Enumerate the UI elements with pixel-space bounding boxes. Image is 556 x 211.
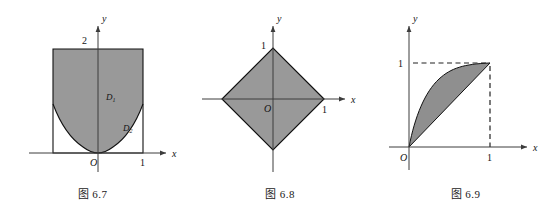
x-axis-label: x bbox=[350, 94, 356, 105]
y-axis-arrow bbox=[96, 26, 101, 32]
y-tick-1-label: 1 bbox=[261, 40, 266, 51]
figure-6-8-caption: 图 6.8 bbox=[185, 185, 375, 201]
figure-6-7-caption: 图 6.7 bbox=[0, 185, 185, 201]
x-axis-label: x bbox=[171, 148, 177, 159]
y-axis-label: y bbox=[412, 13, 418, 24]
x-tick-1-label: 1 bbox=[487, 152, 492, 163]
figure-6-7: x y O 2 1 D1 D2 图 6.7 bbox=[0, 0, 185, 211]
y-axis-label: y bbox=[101, 13, 107, 24]
x-axis-arrow bbox=[339, 97, 345, 102]
origin-label: O bbox=[90, 157, 97, 168]
origin-label: O bbox=[264, 103, 271, 114]
y-axis-arrow bbox=[271, 26, 276, 32]
y-axis-label: y bbox=[276, 13, 282, 24]
origin-label: O bbox=[400, 152, 407, 163]
figure-6-7-canvas: x y O 2 1 D1 D2 bbox=[0, 0, 185, 185]
figure-6-9-canvas: x y O 1 1 bbox=[375, 0, 556, 185]
x-axis-label: x bbox=[532, 142, 538, 153]
x-tick-1-label: 1 bbox=[140, 157, 145, 168]
figure-6-9-caption: 图 6.9 bbox=[375, 185, 556, 201]
x-tick-1-label: 1 bbox=[322, 104, 327, 115]
y-tick-2-label: 2 bbox=[82, 35, 87, 46]
figure-6-8-canvas: x y O 1 1 bbox=[185, 0, 375, 185]
figures-row: x y O 2 1 D1 D2 图 6.7 x y O 1 1 图 6.8 bbox=[0, 0, 556, 211]
figure-6-9: x y O 1 1 图 6.9 bbox=[375, 0, 556, 211]
x-axis-arrow bbox=[160, 151, 166, 156]
y-axis-arrow bbox=[407, 26, 412, 32]
y-tick-1-label: 1 bbox=[398, 58, 403, 69]
shaded-region-lens bbox=[409, 63, 490, 147]
x-axis-arrow bbox=[521, 145, 527, 150]
figure-6-8: x y O 1 1 图 6.8 bbox=[185, 0, 375, 211]
